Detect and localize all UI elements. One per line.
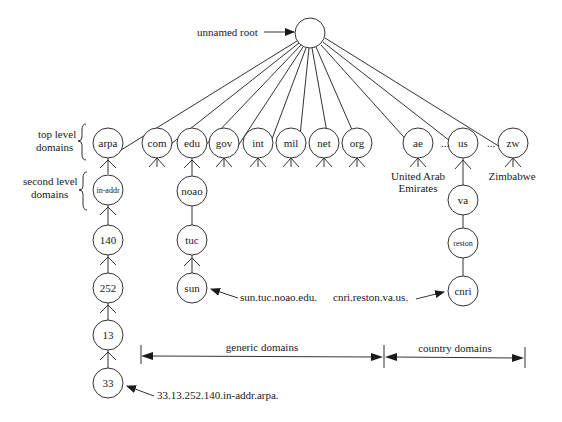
svg-text:domains: domains [36, 141, 73, 153]
svg-text:33: 33 [103, 377, 115, 389]
svg-text:reston: reston [453, 239, 473, 248]
svg-text:cnri.reston.va.us.: cnri.reston.va.us. [333, 291, 408, 303]
svg-text:domains: domains [31, 188, 68, 200]
root-node [295, 18, 325, 48]
node-noao: noao [177, 176, 207, 225]
svg-text:generic domains: generic domains [226, 341, 298, 353]
svg-text:Zimbabwe: Zimbabwe [488, 170, 535, 182]
node-reston: reston [448, 228, 478, 276]
ellipsis-2: ... [487, 137, 496, 149]
svg-text:com: com [148, 137, 167, 149]
tld-edu: edu [177, 128, 207, 176]
tld-com: com [142, 128, 172, 167]
node-cnri: cnri [448, 276, 478, 306]
svg-text:org: org [350, 137, 365, 149]
svg-text:mil: mil [284, 137, 299, 149]
node-tuc: tuc [177, 225, 207, 273]
annotation-sun: sun.tuc.noao.edu. [211, 289, 317, 303]
svg-text:140: 140 [100, 234, 117, 246]
annotation-in-addr: 33.13.252.140.in-addr.arpa. [127, 386, 279, 401]
svg-text:tuc: tuc [185, 234, 199, 246]
svg-text:United Arab: United Arab [391, 170, 446, 182]
tld-ae: ae [403, 128, 433, 167]
node-in-addr: in-addr [93, 175, 123, 225]
svg-text:13: 13 [103, 329, 115, 341]
node-va: va [448, 185, 478, 228]
svg-text:top level: top level [38, 128, 76, 140]
second-level-domains-label: second level domains [23, 172, 87, 210]
svg-text:zw: zw [507, 137, 520, 149]
tld-org: org [342, 128, 372, 167]
svg-text:Emirates: Emirates [398, 182, 437, 194]
svg-text:ae: ae [413, 137, 423, 149]
dns-tree-diagram: unnamed root top level domains second le… [0, 0, 562, 422]
tld-int: int [243, 128, 273, 167]
svg-text:country domains: country domains [418, 342, 492, 354]
node-13: 13 [93, 320, 123, 368]
tld-mil: mil [276, 128, 306, 167]
svg-text:second level: second level [23, 175, 78, 187]
svg-text:int: int [252, 137, 264, 149]
country-name-ae: United Arab Emirates [391, 170, 446, 194]
svg-text:33.13.252.140.in-addr.arpa.: 33.13.252.140.in-addr.arpa. [157, 389, 279, 401]
svg-text:252: 252 [100, 282, 117, 294]
country-name-zw: Zimbabwe [488, 170, 535, 182]
generic-domains-range: generic domains [141, 341, 384, 368]
svg-text:sun.tuc.noao.edu.: sun.tuc.noao.edu. [240, 291, 317, 303]
svg-text:cnri: cnri [454, 285, 471, 297]
tld-arpa: arpa [93, 128, 123, 174]
svg-text:gov: gov [216, 137, 233, 149]
tld-gov: gov [209, 128, 239, 167]
svg-text:net: net [317, 137, 330, 149]
node-140: 140 [93, 225, 123, 274]
svg-text:us: us [458, 137, 468, 149]
svg-text:va: va [458, 194, 469, 206]
svg-text:arpa: arpa [99, 137, 118, 149]
tld-net: net [309, 128, 339, 167]
annotation-cnri: cnri.reston.va.us. [333, 291, 444, 303]
node-33: 33 [93, 368, 123, 398]
svg-text:edu: edu [184, 137, 200, 149]
svg-text:...: ... [487, 137, 496, 149]
top-level-domains-label: top level domains [36, 124, 86, 160]
svg-text:in-addr: in-addr [96, 186, 119, 195]
country-domains-range: country domains [385, 342, 525, 368]
svg-text:sun: sun [184, 282, 200, 294]
tld-zw: zw [498, 128, 528, 167]
svg-text:noao: noao [181, 185, 203, 197]
node-sun: sun [177, 273, 207, 303]
svg-text:unnamed root: unnamed root [197, 26, 258, 38]
node-252: 252 [93, 273, 123, 321]
root-label: unnamed root [197, 26, 294, 38]
tld-us: us [448, 128, 478, 185]
